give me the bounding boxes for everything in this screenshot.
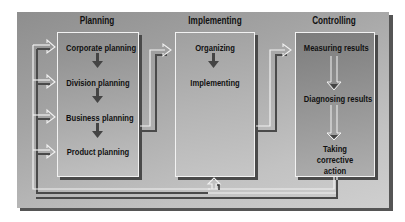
connector-arrows [0,0,405,222]
up-arrow-icon [208,178,220,189]
down-arrow-icon [208,53,219,68]
feedback-loop-bottom [36,177,337,198]
down-arrow-icon [92,53,103,138]
feedback-loop-left [33,45,210,193]
implementing-to-controlling-connector [256,44,291,131]
down-arrow-icon [327,56,341,140]
right-arrow-icon [47,40,55,158]
planning-to-implementing-connector [140,44,171,131]
